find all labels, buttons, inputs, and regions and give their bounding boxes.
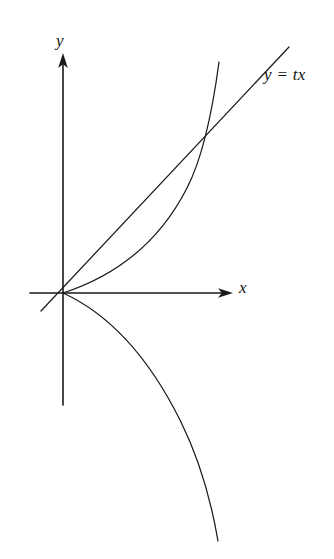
figure-canvas: y x y = tx — [0, 0, 334, 559]
y-axis-label: y — [56, 32, 64, 49]
curve-upper-branch — [63, 62, 219, 293]
x-axis-label: x — [239, 279, 247, 296]
curve-lower-branch — [63, 293, 218, 541]
line-equation-label: y = tx — [264, 66, 306, 83]
line-y-equals-tx — [41, 47, 289, 311]
